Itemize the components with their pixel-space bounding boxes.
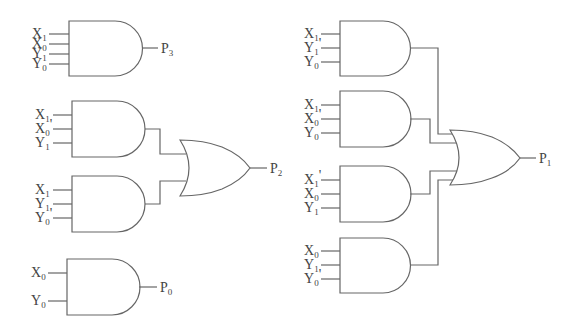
and-gate-p1c: X1' X0 Y1 [304, 166, 411, 222]
or-gate-p2: P2 [145, 129, 282, 204]
input-label: Y0' [35, 206, 52, 227]
and-gate-p1d: X0 Y1 Y0' [304, 238, 410, 293]
logic-diagram: X1 X0 Y1 Y0 P3 X1 X0' Y1 X1 Y1 Y0' P2 [0, 0, 574, 333]
output-label-p0: P0 [160, 280, 173, 297]
and-gate-p2b: X1 Y1 Y0' [35, 176, 145, 232]
and-gate-p2a: X1 X0' Y1 [35, 101, 145, 157]
output-label-p1: P1 [539, 151, 551, 168]
input-label: X0 [31, 265, 46, 282]
input-label: Y0 [31, 293, 46, 310]
output-label-p2: P2 [270, 161, 282, 178]
output-label-p3: P3 [161, 41, 174, 58]
input-label: Y0' [304, 267, 321, 288]
and-gate-p3: X1 X0 Y1 Y0 P3 [32, 21, 174, 76]
and-gate-p0: X0 Y0 P0 [31, 259, 173, 315]
and-gate-p1a: X1 Y1' Y0 [304, 21, 410, 76]
and-gate-p1b: X1 X0' Y0 [304, 91, 411, 147]
or-gate-p1: P1 [410, 48, 551, 265]
